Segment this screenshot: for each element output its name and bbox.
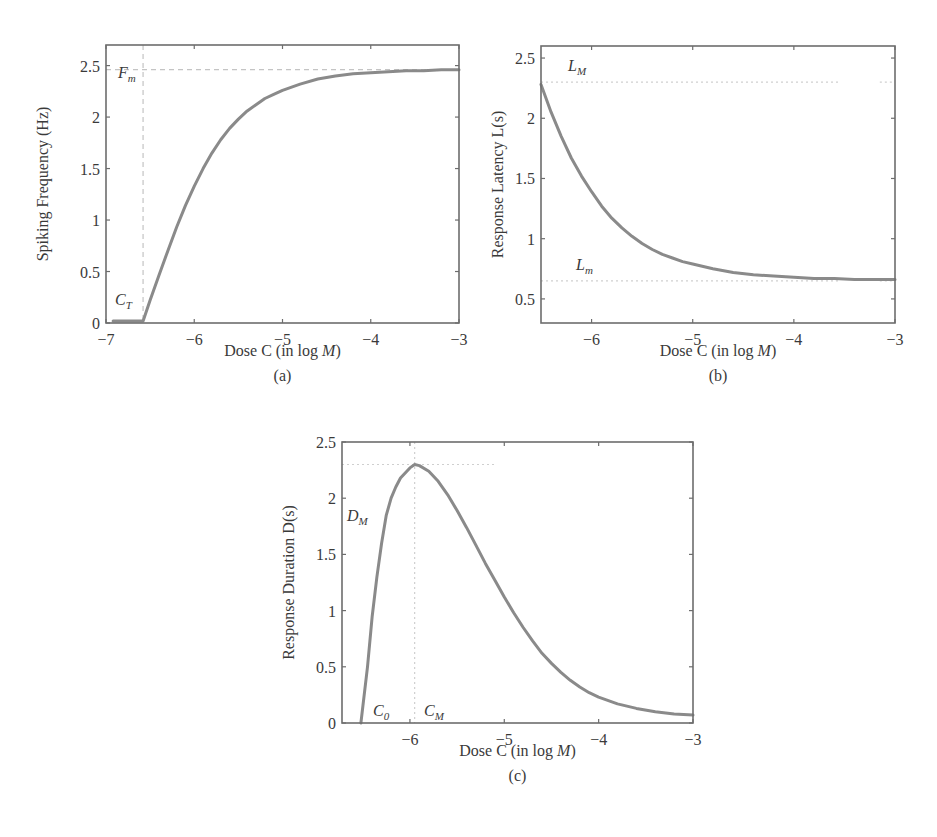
x-tick-label: −6 — [401, 731, 418, 748]
panel-label: (b) — [709, 367, 728, 385]
panel-label: (c) — [509, 767, 527, 785]
y-tick-label: 2.5 — [80, 58, 100, 75]
y-tick-label: 1.5 — [515, 170, 535, 187]
x-tick-label: −4 — [785, 331, 802, 348]
x-tick-label: −4 — [590, 731, 607, 748]
y-axis-label: Response Duration D(s) — [280, 505, 298, 660]
chart-panel-b: −6−5−4−30.511.522.5Dose C (in log M)Resp… — [489, 46, 904, 385]
y-tick-label: 0.5 — [80, 264, 100, 281]
y-tick-label: 2 — [328, 490, 336, 507]
data-curve — [113, 70, 459, 321]
x-tick-label: −3 — [684, 731, 701, 748]
x-axis-label: Dose C (in log M) — [660, 342, 776, 360]
annotation-c-m: CM — [424, 702, 445, 722]
axes-frame — [106, 45, 459, 323]
x-tick-label: −3 — [886, 331, 903, 348]
annotation-l-m: Lm — [575, 256, 593, 276]
annotation-l-m: LM — [567, 57, 587, 77]
panel-label: (a) — [274, 367, 292, 385]
axes-frame — [541, 46, 895, 323]
y-tick-label: 1 — [527, 231, 535, 248]
axes-frame — [342, 442, 693, 723]
x-tick-label: −7 — [97, 331, 114, 348]
y-tick-label: 0 — [92, 315, 100, 332]
x-tick-label: −6 — [583, 331, 600, 348]
y-tick-label: 0 — [328, 715, 336, 732]
chart-panel-c: −6−5−4−300.511.522.5Dose C (in log M)Res… — [280, 434, 702, 785]
y-tick-label: 2 — [527, 110, 535, 127]
y-tick-label: 1 — [328, 603, 336, 620]
x-axis-label: Dose C (in log M) — [224, 342, 340, 360]
y-tick-label: 0.5 — [515, 291, 535, 308]
y-axis-label: Response Latency L(s) — [489, 111, 507, 259]
data-curve — [541, 85, 895, 280]
y-tick-label: 1.5 — [316, 546, 336, 563]
y-axis-label: Spiking Frequency (Hz) — [34, 107, 52, 262]
data-curve — [361, 465, 693, 724]
annotation-c-0: C0 — [373, 702, 390, 722]
y-tick-label: 1 — [92, 212, 100, 229]
annotation-c-t: CT — [115, 291, 133, 311]
x-axis-label: Dose C (in log M) — [459, 742, 575, 760]
x-tick-label: −3 — [450, 331, 467, 348]
figure: −7−6−5−4−300.511.522.5Dose C (in log M)S… — [0, 0, 937, 837]
annotation-d-m: DM — [346, 507, 369, 527]
y-tick-label: 1.5 — [80, 161, 100, 178]
y-tick-label: 0.5 — [316, 659, 336, 676]
chart-panel-a: −7−6−5−4−300.511.522.5Dose C (in log M)S… — [34, 45, 468, 385]
annotation-f-m: Fm — [117, 64, 136, 84]
y-tick-label: 2.5 — [515, 50, 535, 67]
x-tick-label: −6 — [186, 331, 203, 348]
y-tick-label: 2 — [92, 109, 100, 126]
y-tick-label: 2.5 — [316, 434, 336, 451]
x-tick-label: −4 — [362, 331, 379, 348]
